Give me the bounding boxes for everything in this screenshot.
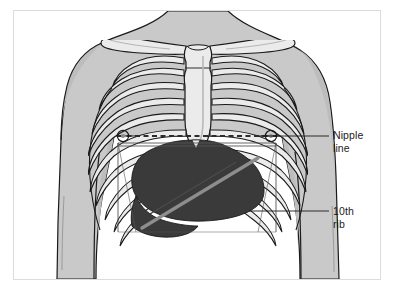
label-tenth-rib-line2: rib bbox=[333, 218, 345, 230]
label-nipple-line: Nippleline bbox=[333, 129, 363, 154]
anatomy-figure: Nippleline 10thrib bbox=[0, 0, 394, 293]
label-nipple-line-line1: Nipple bbox=[333, 129, 363, 141]
label-tenth-rib: 10thrib bbox=[333, 205, 354, 230]
label-nipple-line-line2: line bbox=[333, 142, 350, 154]
label-tenth-rib-line1: 10th bbox=[333, 205, 354, 217]
